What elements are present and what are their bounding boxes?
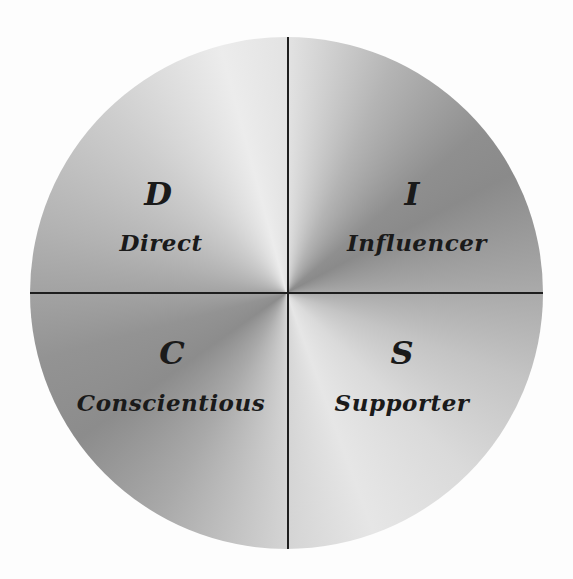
quadrant-label-influencer: Influencer [297, 231, 537, 254]
quadrant-letter-s: S [302, 337, 502, 369]
quadrant-label-supporter: Supporter [282, 391, 522, 414]
quadrant-letter-i: I [312, 178, 512, 210]
disc-wheel [30, 37, 543, 549]
quadrant-label-direct: Direct [41, 231, 281, 254]
quadrant-label-conscientious: Conscientious [51, 391, 291, 414]
horizontal-divider [30, 292, 543, 294]
quadrant-letter-c: C [72, 337, 272, 369]
quadrant-letter-d: D [58, 178, 258, 210]
